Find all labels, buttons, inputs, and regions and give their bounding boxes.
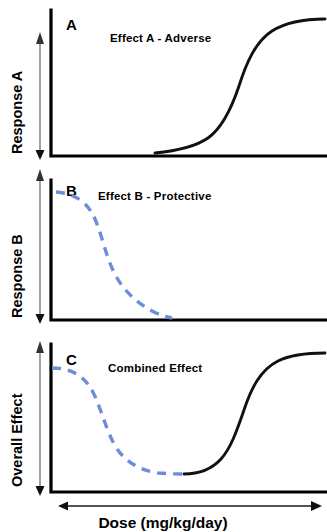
x-axis-label: Dose (mg/kg/day) [98, 514, 227, 531]
dose-axis [58, 501, 322, 511]
panel-c-range-arrow [36, 341, 45, 496]
panel-b: Response B B Effect B - Protective [9, 169, 327, 324]
dose-response-figure: Response A A Effect A - Adverse Response… [0, 0, 327, 532]
panel-c: Overall Effect C Combined Effect [9, 341, 327, 496]
panel-c-protective-curve [52, 368, 187, 474]
panel-b-protective-curve [56, 192, 172, 318]
panel-b-y-axis-label: Response B [9, 234, 25, 318]
panel-a-title: Effect A - Adverse [110, 32, 211, 44]
panel-c-adverse-curve [184, 353, 325, 474]
panel-b-title: Effect B - Protective [98, 190, 211, 202]
panel-c-title: Combined Effect [108, 362, 202, 374]
panel-a-y-axis-label: Response A [9, 70, 25, 154]
panel-a-range-arrow [36, 32, 45, 160]
panel-a-letter: A [66, 16, 77, 33]
panel-c-letter: C [66, 351, 77, 368]
panel-c-y-axis-label: Overall Effect [9, 393, 25, 487]
panel-b-range-arrow [36, 169, 45, 324]
panel-a: Response A A Effect A - Adverse [9, 10, 327, 160]
